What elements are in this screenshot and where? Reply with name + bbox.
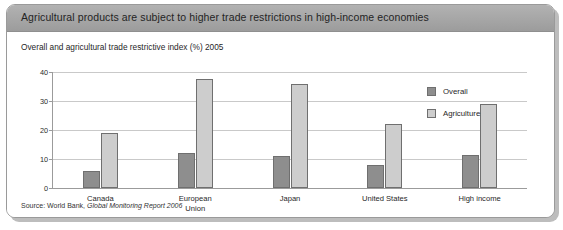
y-tick-label: 20 — [40, 126, 48, 135]
bar-group — [83, 72, 118, 188]
legend-label-overall: Overall — [443, 87, 468, 96]
category-label: United States — [337, 194, 432, 204]
category-label: Japan — [243, 194, 338, 204]
y-tick-label: 40 — [40, 68, 48, 77]
chart-legend: Overall Agriculture — [427, 80, 480, 124]
bar-group — [273, 72, 308, 188]
y-tick-label: 10 — [40, 155, 48, 164]
card-title: Agricultural products are subject to hig… — [21, 11, 429, 23]
bar-agriculture-canada — [101, 133, 118, 188]
bar-agriculture-high-income — [480, 104, 497, 188]
bar-agriculture-united-states — [385, 124, 402, 188]
y-tick-label: 30 — [40, 97, 48, 106]
bar-overall-high-income — [462, 155, 479, 188]
category-label: High income — [432, 194, 527, 204]
y-tick-mark — [49, 188, 53, 189]
bar-agriculture-japan — [291, 84, 308, 188]
source-prefix: Source: World Bank, — [21, 202, 87, 209]
card-header-band: Agricultural products are subject to hig… — [7, 5, 554, 32]
bar-overall-united-states — [367, 165, 384, 188]
figure-root: Agricultural products are subject to hig… — [0, 0, 563, 230]
bar-overall-japan — [273, 156, 290, 188]
bar-group — [178, 72, 213, 188]
chart-subtitle: Overall and agricultural trade restricti… — [21, 42, 223, 52]
legend-swatch-overall-icon — [427, 87, 436, 96]
legend-item-overall: Overall — [427, 80, 480, 102]
source-reference: Global Monitoring Report 2006 — [87, 202, 182, 209]
bar-overall-european-union — [178, 153, 195, 188]
source-note: Source: World Bank, Global Monitoring Re… — [21, 202, 182, 209]
card-body: Overall and agricultural trade restricti… — [7, 33, 554, 217]
bar-group — [367, 72, 402, 188]
chart-card: Agricultural products are subject to hig… — [6, 4, 555, 218]
y-tick-label: 0 — [44, 184, 48, 193]
legend-item-agriculture: Agriculture — [427, 102, 480, 124]
legend-label-agriculture: Agriculture — [443, 109, 480, 118]
bar-overall-canada — [83, 171, 100, 188]
bar-agriculture-european-union — [196, 79, 213, 188]
legend-swatch-agriculture-icon — [427, 109, 436, 118]
gridline-0: 0 — [53, 188, 527, 189]
